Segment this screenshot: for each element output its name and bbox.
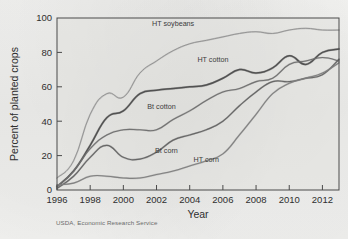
x-axis-tick-label: 2002	[146, 194, 167, 205]
line-chart: 0204060801001996199820002002200420062008…	[0, 0, 348, 239]
x-axis-tick-label: 2012	[312, 194, 333, 205]
source-note: USDA, Economic Research Service	[56, 219, 157, 226]
x-axis-tick-label: 2006	[212, 194, 233, 205]
x-axis-tick-label: 2008	[245, 194, 266, 205]
series-label-ht-corn: HT corn	[194, 155, 219, 164]
y-axis-tick-label: 60	[41, 81, 52, 92]
chart-figure: 0204060801001996199820002002200420062008…	[0, 0, 348, 239]
series-label-ht-cotton: HT cotton	[197, 55, 228, 64]
x-axis-title: Year	[187, 208, 209, 220]
x-axis-tick-label: 2010	[279, 194, 300, 205]
series-label-ht-soybeans: HT soybeans	[152, 19, 195, 28]
series-label-bt-cotton: Bt cotton	[147, 102, 175, 111]
y-axis-tick-label: 80	[41, 47, 52, 58]
x-axis-tick-label: 2000	[113, 194, 134, 205]
x-axis-tick-label: 1998	[80, 194, 101, 205]
series-label-bt-corn: Bt corn	[155, 146, 178, 155]
y-axis-tick-label: 20	[41, 150, 52, 161]
y-axis-tick-label: 100	[36, 12, 52, 23]
y-axis-title: Percent of planted crops	[8, 47, 20, 161]
x-axis-tick-label: 2004	[179, 194, 200, 205]
x-axis-tick-label: 1996	[46, 194, 67, 205]
y-axis-tick-label: 40	[41, 116, 52, 127]
